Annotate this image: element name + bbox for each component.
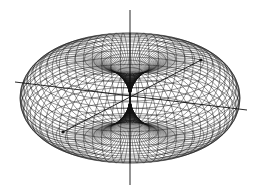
meridian-line (130, 36, 176, 124)
torus-figure (0, 0, 261, 192)
axis-end-marker-front (61, 130, 64, 133)
axis-end-marker-back (199, 58, 202, 61)
torus-wireframe-plot (0, 0, 261, 192)
meridian-line (84, 73, 130, 161)
meridian-line (84, 36, 130, 124)
meridian-line (130, 73, 176, 161)
